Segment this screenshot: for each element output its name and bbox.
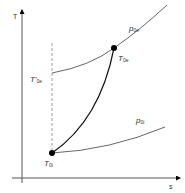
point-T0e: [111, 45, 117, 51]
label-p0e: p0e: [128, 24, 139, 33]
point-T0i: [49, 150, 55, 156]
ts-diagram: T s p0e p0i T0e T'0e T0i: [0, 0, 185, 193]
label-p0i: p0i: [135, 116, 144, 125]
label-T0e-prime: T'0e: [30, 75, 42, 84]
isobar-p0e: [52, 5, 167, 73]
label-T0i: T0i: [44, 159, 53, 168]
x-axis-label: s: [169, 183, 173, 190]
label-T0e: T0e: [118, 54, 129, 63]
compression-process-curve: [52, 48, 114, 153]
y-axis-label: T: [13, 13, 18, 20]
